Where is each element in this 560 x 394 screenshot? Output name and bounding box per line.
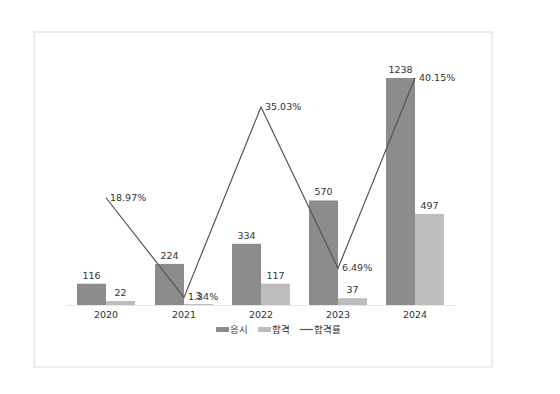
bar-응시-2024 <box>386 78 415 305</box>
x-tick-label: 2021 <box>172 309 196 320</box>
x-tick-label: 2023 <box>326 309 350 320</box>
bar-합격-2021 <box>184 304 213 305</box>
line-value-label: 40.15% <box>419 72 455 83</box>
x-tick-label: 2024 <box>403 309 427 320</box>
bar-응시-2020 <box>77 284 106 305</box>
bar-value-label: 570 <box>314 186 332 197</box>
line-value-label: 35.03% <box>265 101 301 112</box>
legend-swatch-1 <box>258 327 271 332</box>
bar-value-label: 224 <box>160 250 178 261</box>
bar-value-label: 334 <box>237 230 255 241</box>
combo-chart: 1162220202243202133411720225703720231238… <box>0 0 560 394</box>
legend-swatch-0 <box>216 327 229 332</box>
bar-value-label: 22 <box>114 287 126 298</box>
bar-합격-2024 <box>415 214 444 305</box>
bar-응시-2022 <box>232 244 261 305</box>
x-tick-label: 2020 <box>94 309 118 320</box>
x-tick-label: 2022 <box>249 309 273 320</box>
bar-합격-2022 <box>261 284 290 305</box>
line-value-label: 1.34% <box>188 291 218 302</box>
bar-합격-2023 <box>338 298 367 305</box>
bar-합격-2020 <box>106 301 135 305</box>
line-value-label: 18.97% <box>110 192 146 203</box>
legend-label: 합격 <box>272 324 290 335</box>
legend-label: 합격률 <box>314 324 341 335</box>
bar-value-label: 116 <box>82 270 100 281</box>
bar-value-label: 497 <box>420 200 438 211</box>
bar-value-label: 37 <box>346 284 358 295</box>
line-value-label: 6.49% <box>342 262 372 273</box>
legend-label: 응시 <box>230 324 248 335</box>
bar-value-label: 1238 <box>388 64 412 75</box>
bar-value-label: 117 <box>266 270 284 281</box>
bar-응시-2021 <box>155 264 184 305</box>
